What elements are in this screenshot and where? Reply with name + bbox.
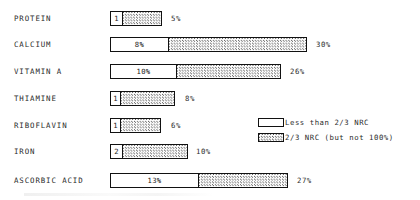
bar-segment-two-thirds-nrc — [121, 119, 160, 132]
bar-segment-less-than-two-thirds: 13% — [111, 174, 199, 187]
bar-segment-less-than-two-thirds: 2 — [111, 145, 123, 158]
bar-total-label-iron: 10% — [196, 144, 211, 159]
segment-value-label: 8% — [135, 41, 144, 48]
legend-item-two-thirds-nrc: 2/3 NRC (but not 100%) — [258, 131, 418, 144]
bar-calcium: 8% — [110, 37, 307, 52]
legend-label: Less than 2/3 NRC — [285, 118, 369, 127]
bar-total-label-calcium: 30% — [316, 37, 331, 52]
bar-total-label-protein: 5% — [171, 11, 181, 26]
bar-row: THIAMINE 1 8% — [0, 88, 420, 110]
bar-segment-two-thirds-nrc — [123, 12, 161, 25]
bar-thiamine: 1 — [110, 91, 175, 106]
legend-item-less-than-two-thirds: Less than 2/3 NRC — [258, 116, 418, 129]
legend-swatch-white-icon — [258, 118, 284, 127]
category-label-ascorbic-acid: ASCORBIC ACID — [14, 170, 110, 192]
bar-segment-less-than-two-thirds: 1 — [111, 12, 123, 25]
legend-label: 2/3 NRC (but not 100%) — [285, 133, 394, 142]
category-label-iron: IRON — [14, 141, 110, 163]
bar-segment-less-than-two-thirds: 1 — [111, 119, 121, 132]
segment-value-label: 10% — [136, 68, 150, 75]
bar-segment-less-than-two-thirds: 10% — [111, 65, 177, 78]
bar-row: VITAMIN A 10% 26% — [0, 61, 420, 83]
category-label-protein: PROTEIN — [14, 8, 110, 30]
bar-segment-less-than-two-thirds: 1 — [111, 92, 121, 105]
category-label-thiamine: THIAMINE — [14, 88, 110, 110]
bar-segment-two-thirds-nrc — [123, 145, 187, 158]
legend-swatch-stipple-icon — [258, 133, 284, 142]
bar-total-label-thiamine: 8% — [185, 91, 195, 106]
bar-iron: 2 — [110, 144, 188, 159]
bar-total-label-riboflavin: 6% — [171, 118, 181, 133]
bar-ascorbic-acid: 13% — [110, 173, 288, 188]
segment-value-label: 2 — [114, 148, 119, 155]
bar-segment-two-thirds-nrc — [169, 38, 306, 51]
bar-riboflavin: 1 — [110, 118, 161, 133]
bar-row: CALCIUM 8% 30% — [0, 34, 420, 56]
bar-row: ASCORBIC ACID 13% 27% — [0, 170, 420, 192]
stacked-bar-chart: PROTEIN 1 5% CALCIUM 8% 30% VITAMIN A 10… — [0, 0, 420, 200]
category-label-riboflavin: RIBOFLAVIN — [14, 115, 110, 137]
bar-segment-two-thirds-nrc — [199, 174, 287, 187]
bar-segment-less-than-two-thirds: 8% — [111, 38, 169, 51]
bar-protein: 1 — [110, 11, 162, 26]
scan-artifact — [24, 193, 214, 196]
bar-vitamin-a: 10% — [110, 64, 281, 79]
bar-total-label-vitamin-a: 26% — [290, 64, 305, 79]
segment-value-label: 1 — [113, 95, 118, 102]
segment-value-label: 1 — [114, 15, 119, 22]
category-label-vitamin-a: VITAMIN A — [14, 61, 110, 83]
bar-row: PROTEIN 1 5% — [0, 8, 420, 30]
category-label-calcium: CALCIUM — [14, 34, 110, 56]
bar-segment-two-thirds-nrc — [121, 92, 174, 105]
chart-legend: Less than 2/3 NRC 2/3 NRC (but not 100%) — [258, 116, 418, 146]
segment-value-label: 13% — [147, 177, 161, 184]
segment-value-label: 1 — [113, 122, 118, 129]
bar-segment-two-thirds-nrc — [177, 65, 280, 78]
bar-total-label-ascorbic-acid: 27% — [297, 173, 312, 188]
